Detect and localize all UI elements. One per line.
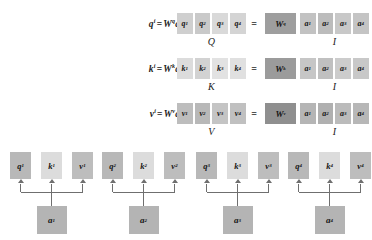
query-row-output-cell-3-superscript: 3 <box>221 21 224 26</box>
group-4-input: a4 <box>315 206 345 234</box>
group-1-input-superscript: 1 <box>53 218 56 223</box>
group-4-output-v: v4 <box>350 152 371 179</box>
value-row-output-cell-2-superscript: 2 <box>203 111 206 116</box>
group-2-output-q-superscript: 2 <box>113 163 116 168</box>
group-2-input: a2 <box>129 206 159 234</box>
group-1-bus <box>21 192 83 193</box>
group-4-riser-0 <box>298 184 299 193</box>
query-row-equation: qi=Wqai <box>112 18 182 29</box>
value-row-output-cell-3-superscript: 3 <box>221 111 224 116</box>
value-row-input-cell-2: a2 <box>318 103 334 124</box>
group-1-riser-0 <box>20 184 21 193</box>
key-row-output-cell-3-superscript: 3 <box>221 66 224 71</box>
group-3-riser-1 <box>237 184 238 193</box>
key-row-output-cell-3: k3 <box>212 58 228 79</box>
value-row-input-cell-3-superscript: 3 <box>344 111 347 116</box>
query-row-input-cell-4: a4 <box>353 13 369 34</box>
key-row-input-cell-4-superscript: 4 <box>362 66 365 71</box>
group-3-input: a3 <box>223 206 253 234</box>
group-1-output-q: q1 <box>10 152 31 179</box>
value-row-input-cell-4: a4 <box>353 103 369 124</box>
query-row-output-label: Q <box>177 36 246 47</box>
group-1-output-v: v1 <box>72 152 93 179</box>
value-row-weight-matrix: Wv <box>265 103 296 124</box>
key-row-equals-sign: = <box>248 63 260 74</box>
value-row-output-cell-3: v3 <box>212 103 228 124</box>
query-row-output-cell-2: q2 <box>195 13 211 34</box>
value-row-input-cell-1-superscript: 1 <box>309 111 312 116</box>
key-row-equation: ki=Wkai <box>112 63 182 74</box>
group-2-arrowhead-0 <box>110 179 116 183</box>
group-4-output-k-superscript: 4 <box>330 163 333 168</box>
key-row-input-cell-2: a2 <box>318 58 334 79</box>
value-row-input-cell-3: a3 <box>335 103 351 124</box>
value-row-output-cell-2: v2 <box>195 103 211 124</box>
key-row-output-cell-1-superscript: 1 <box>186 66 189 71</box>
group-1-arrowhead-1 <box>49 179 55 183</box>
query-row-input-cell-1: a1 <box>300 13 316 34</box>
group-4-output-q: q4 <box>288 152 309 179</box>
value-row-output-cell-1-superscript: 1 <box>185 111 188 116</box>
key-row-weight-matrix-superscript: k <box>283 66 286 71</box>
group-3-output-v-superscript: 3 <box>269 163 272 168</box>
group-3-arrowhead-2 <box>266 179 272 183</box>
group-1-arrowhead-2 <box>80 179 86 183</box>
group-3-output-q-superscript: 3 <box>207 163 210 168</box>
value-row-equals-sign: = <box>248 108 260 119</box>
query-row-input-label: I <box>300 36 369 47</box>
group-3-arrowhead-1 <box>235 179 241 183</box>
group-4-riser-1 <box>329 184 330 193</box>
group-3-output-k-superscript: 3 <box>238 163 241 168</box>
value-row-input-cell-4-superscript: 4 <box>362 111 365 116</box>
key-row-input-cell-1-superscript: 1 <box>309 66 312 71</box>
key-row-output-cell-1: k1 <box>177 58 193 79</box>
group-2-bus <box>113 192 175 193</box>
key-row-output-label: K <box>177 81 246 92</box>
group-2-output-v-superscript: 2 <box>175 163 178 168</box>
group-2-output-k-superscript: 2 <box>144 163 147 168</box>
key-row-input-cell-3-superscript: 3 <box>344 66 347 71</box>
group-2-riser-1 <box>143 184 144 193</box>
group-2-output-q: q2 <box>102 152 123 179</box>
query-row-output-cell-1-superscript: 1 <box>186 21 189 26</box>
query-row-output-cell-1: q1 <box>177 13 193 34</box>
value-row-output-cell-4-superscript: 4 <box>238 111 241 116</box>
group-3-output-k: k3 <box>227 152 248 179</box>
group-1-arrowhead-0 <box>18 179 24 183</box>
group-1-output-k: k1 <box>41 152 62 179</box>
group-4-arrowhead-0 <box>296 179 302 183</box>
query-row-equation-weight: Wq <box>163 19 175 29</box>
group-1-riser-1 <box>51 184 52 193</box>
query-row-output-cell-4-superscript: 4 <box>239 21 242 26</box>
group-4-riser-2 <box>360 184 361 193</box>
query-row-weight-matrix: Wq <box>265 13 296 34</box>
key-row-output-cell-4-superscript: 4 <box>239 66 242 71</box>
value-row-output-label: V <box>177 126 246 137</box>
group-2-arrowhead-1 <box>141 179 147 183</box>
key-row-input-cell-4: a4 <box>353 58 369 79</box>
query-row-output-cell-3: q3 <box>212 13 228 34</box>
group-4-output-v-superscript: 4 <box>361 163 364 168</box>
key-row-output-cell-4: k4 <box>230 58 246 79</box>
value-row-input-cell-1: a1 <box>300 103 316 124</box>
group-2-output-k: k2 <box>133 152 154 179</box>
group-4-bus <box>299 192 361 193</box>
query-row-input-cell-3-superscript: 3 <box>344 21 347 26</box>
value-row-equation-equals: = <box>156 109 164 119</box>
value-row-equation-weight: Wv <box>164 109 176 119</box>
group-2-arrowhead-2 <box>172 179 178 183</box>
group-4-input-superscript: 4 <box>331 218 334 223</box>
group-3-stem <box>237 192 238 206</box>
group-2-riser-2 <box>174 184 175 193</box>
group-3-riser-2 <box>268 184 269 193</box>
group-2-output-v: v2 <box>164 152 185 179</box>
group-1-output-q-superscript: 1 <box>21 163 24 168</box>
key-row-input-cell-2-superscript: 2 <box>326 66 329 71</box>
value-row-input-label: I <box>300 126 369 137</box>
group-2-stem <box>143 192 144 206</box>
key-row-weight-matrix: Wk <box>265 58 296 79</box>
group-4-stem <box>329 192 330 206</box>
value-row-output-cell-4: v4 <box>230 103 246 124</box>
group-4-arrowhead-2 <box>358 179 364 183</box>
query-row-output-cell-2-superscript: 2 <box>203 21 206 26</box>
